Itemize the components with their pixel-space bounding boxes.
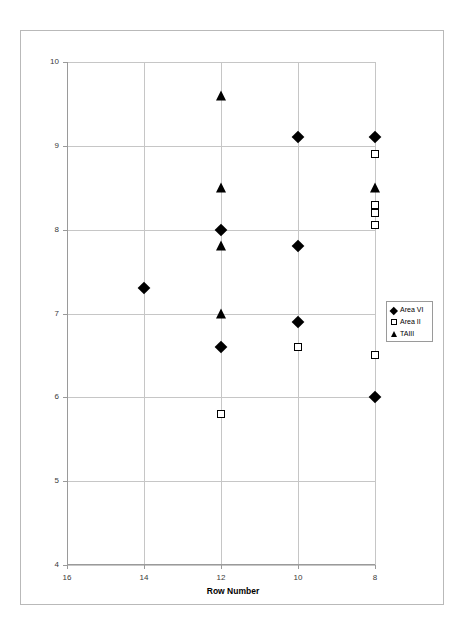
- data-point-triangle: [216, 90, 226, 100]
- legend-label: Area VI: [400, 306, 423, 314]
- data-point-diamond: [292, 240, 305, 253]
- data-point-diamond: [215, 223, 228, 236]
- y-tick-label: 6: [29, 393, 59, 401]
- x-tick-label: 14: [129, 574, 159, 582]
- data-point-triangle: [216, 308, 226, 318]
- filled-diamond-icon: [390, 305, 398, 315]
- data-point-diamond: [292, 316, 305, 329]
- data-point-square: [371, 201, 379, 209]
- y-tick-label: 7: [29, 310, 59, 318]
- open-square-icon: [390, 317, 398, 327]
- data-point-square: [371, 351, 379, 359]
- x-tick: [221, 565, 222, 569]
- x-tick: [144, 565, 145, 569]
- x-tick-label: 16: [52, 574, 82, 582]
- plot-area: [67, 62, 375, 565]
- y-axis-line: [67, 62, 68, 565]
- y-tick-label: 10: [29, 58, 59, 66]
- x-tick: [67, 565, 68, 569]
- x-tick: [298, 565, 299, 569]
- legend-label: TAIII: [400, 330, 414, 338]
- data-point-diamond: [215, 341, 228, 354]
- x-axis-title: Row Number: [0, 586, 466, 596]
- gridline-vertical: [144, 62, 145, 565]
- data-point-triangle: [216, 182, 226, 192]
- data-point-triangle: [370, 182, 380, 192]
- data-point-square: [371, 221, 379, 229]
- x-tick-label: 10: [283, 574, 313, 582]
- data-point-square: [371, 150, 379, 158]
- legend-label: Area II: [400, 318, 421, 326]
- y-tick-label: 5: [29, 477, 59, 485]
- x-tick: [375, 565, 376, 569]
- y-tick-label: 9: [29, 142, 59, 150]
- filled-triangle-icon: [390, 329, 398, 339]
- data-point-diamond: [292, 131, 305, 144]
- x-tick-label: 8: [360, 574, 390, 582]
- data-point-diamond: [138, 282, 151, 295]
- chart-legend: Area VI Area II TAIII: [386, 301, 433, 342]
- y-tick-label: 4: [29, 561, 59, 569]
- chart-figure: 45678910161412108 Cupule Width Row Numbe…: [0, 0, 466, 641]
- data-point-square: [294, 343, 302, 351]
- data-point-square: [217, 410, 225, 418]
- x-tick-label: 12: [206, 574, 236, 582]
- y-tick-label: 8: [29, 226, 59, 234]
- legend-item-taiii: TAIII: [390, 328, 430, 340]
- legend-item-area-vi: Area VI: [390, 304, 430, 316]
- legend-item-area-ii: Area II: [390, 316, 430, 328]
- x-axis-line: [67, 564, 375, 565]
- data-point-square: [371, 209, 379, 217]
- data-point-triangle: [216, 241, 226, 251]
